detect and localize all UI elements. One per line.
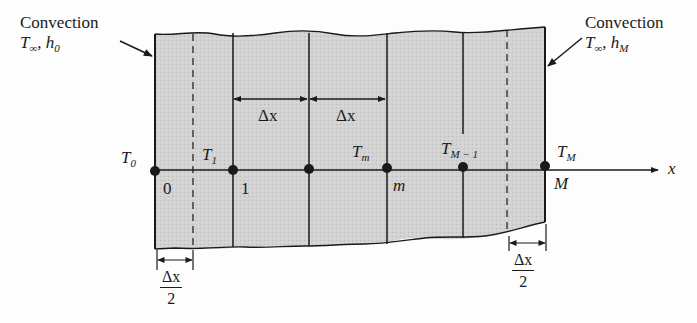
- node-index-1: 1: [241, 180, 250, 197]
- node-temp-0: T0: [121, 149, 136, 169]
- node-temp-M: TM: [557, 143, 576, 163]
- node-index-m: m: [393, 177, 405, 194]
- right-boundary-params: T∞, hM: [585, 34, 628, 54]
- node-temp-M-1: TM − 1: [441, 140, 478, 160]
- x-axis-label: x: [668, 160, 676, 177]
- half-dx-right: Δx 2: [512, 252, 534, 290]
- node-index-M: M: [554, 175, 568, 192]
- left-boundary-label: Convection: [20, 14, 98, 31]
- slab: [155, 27, 545, 249]
- right-boundary-label: Convection: [585, 14, 663, 31]
- node-temp-m: Tm: [352, 143, 369, 163]
- dx-label-2: Δx: [336, 107, 355, 124]
- dx-label-1: Δx: [258, 107, 277, 124]
- node-temp-1: T1: [202, 146, 217, 166]
- diagram-canvas: Convection T∞, h0 Convection T∞, hM T0 T…: [0, 0, 697, 323]
- node-index-0: 0: [163, 180, 172, 197]
- left-boundary-params: T∞, h0: [20, 34, 60, 54]
- half-dx-left: Δx 2: [160, 269, 182, 307]
